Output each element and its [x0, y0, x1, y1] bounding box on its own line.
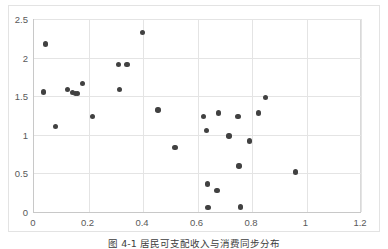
y-tick-label: 0.5	[15, 168, 28, 179]
scatter-point	[235, 114, 240, 119]
x-tick-label: 0.6	[190, 217, 203, 228]
y-tick-label: 2.5	[15, 14, 28, 25]
scatter-point	[293, 169, 298, 174]
y-tick-label: 1.5	[15, 91, 28, 102]
scatter-point	[204, 128, 209, 133]
scatter-point	[75, 91, 80, 96]
scatter-point	[216, 110, 221, 115]
scatter-point	[155, 107, 160, 112]
scatter-point	[263, 95, 268, 100]
scatter-point	[43, 41, 48, 46]
scatter-point	[238, 204, 243, 209]
gridline-vertical	[361, 19, 362, 212]
scatter-point	[41, 89, 46, 94]
gridline-vertical	[143, 19, 144, 212]
x-axis-tick-labels: 00.20.40.60.811.2	[33, 217, 361, 231]
scatter-point	[124, 62, 129, 67]
scatter-point	[117, 87, 122, 92]
figure-caption: 图 4-1 居民可支配收入与消费同步分布	[0, 236, 388, 249]
scatter-point	[116, 62, 121, 67]
y-axis-tick-labels: 00.511.522.5	[0, 19, 28, 213]
scatter-point	[214, 188, 219, 193]
scatter-point	[53, 124, 58, 129]
scatter-point	[256, 110, 261, 115]
scatter-point	[205, 205, 210, 210]
x-tick-label: 0.4	[135, 217, 148, 228]
gridline-vertical	[307, 19, 308, 212]
y-tick-label: 1	[23, 129, 28, 140]
scatter-plot-area	[33, 19, 361, 213]
gridline-vertical	[252, 19, 253, 212]
scatter-point	[172, 145, 177, 150]
scatter-point	[205, 181, 210, 186]
scatter-point	[226, 133, 231, 138]
x-tick-label: 0.8	[244, 217, 257, 228]
scatter-point	[247, 138, 252, 143]
y-tick-label: 2	[23, 52, 28, 63]
scatter-point	[201, 114, 206, 119]
scatter-point	[90, 114, 95, 119]
x-tick-label: 1	[303, 217, 308, 228]
y-tick-label: 0	[23, 207, 28, 218]
x-tick-label: 0.2	[81, 217, 94, 228]
gridline-vertical	[198, 19, 199, 212]
x-tick-label: 0	[30, 217, 35, 228]
scatter-point	[140, 30, 145, 35]
scatter-point	[80, 81, 85, 86]
figure-container: 00.511.522.5 00.20.40.60.811.2 图 4-1 居民可…	[0, 0, 388, 249]
scatter-point	[236, 163, 241, 168]
x-tick-label: 1.2	[353, 217, 366, 228]
